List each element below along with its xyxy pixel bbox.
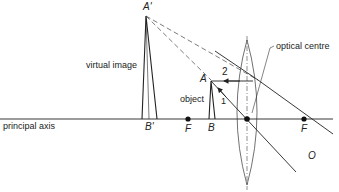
optical-centre-point <box>244 116 250 122</box>
lens-centre-label: O <box>308 151 316 161</box>
image-top-label: A' <box>143 2 152 12</box>
principal-axis-label: principal axis <box>3 122 55 131</box>
ray-diagram <box>0 0 339 192</box>
optical-centre-label: optical centre <box>276 42 330 51</box>
construction-line-lower <box>146 16 211 80</box>
optical-centre-pointer <box>252 48 270 113</box>
ray-1-label: 1 <box>221 97 226 106</box>
object-top-label: A <box>200 74 207 84</box>
optical-centre-pointer-tick <box>270 46 274 48</box>
focus-right-label: F <box>301 124 307 134</box>
object-base-label: B <box>208 123 215 133</box>
focus-right-point <box>301 116 306 121</box>
focus-left-point <box>185 116 190 121</box>
ray-2-refracted <box>258 80 333 134</box>
image-base-label: B' <box>145 122 154 132</box>
virtual-image-label: virtual image <box>86 61 137 70</box>
virtual-image-arrow <box>142 16 157 119</box>
focus-left-label: F <box>185 124 191 134</box>
object-arrow <box>209 81 215 119</box>
construction-line-upper <box>146 16 258 80</box>
ray-2-label: 2 <box>222 67 228 77</box>
object-label: object <box>180 95 204 104</box>
